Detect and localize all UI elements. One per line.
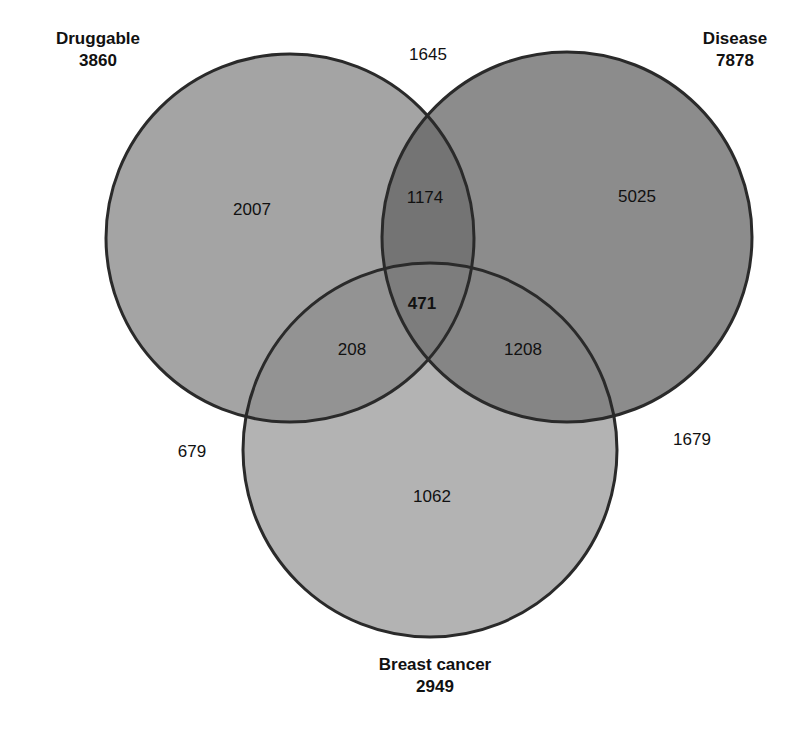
- disease-set-name: Disease: [703, 28, 767, 50]
- druggable-only-count: 2007: [233, 200, 271, 220]
- druggable-breast-cancer-count: 208: [338, 340, 366, 360]
- all-three-count: 471: [408, 294, 436, 314]
- druggable-set-label: Druggable 3860: [56, 28, 140, 72]
- outside-top-count: 1645: [409, 45, 447, 65]
- druggable-set-name: Druggable: [56, 28, 140, 50]
- breast-cancer-set-count: 2949: [379, 676, 491, 698]
- druggable-disease-count: 1174: [407, 188, 444, 208]
- disease-breast-cancer-count: 1208: [504, 340, 542, 360]
- outside-right-count: 1679: [673, 430, 711, 450]
- disease-set-label: Disease 7878: [703, 28, 767, 72]
- venn-diagram: [0, 0, 806, 740]
- breast-cancer-set-label: Breast cancer 2949: [379, 654, 491, 698]
- breast-cancer-only-count: 1062: [413, 487, 451, 507]
- breast-cancer-set-name: Breast cancer: [379, 654, 491, 676]
- outside-left-count: 679: [178, 442, 206, 462]
- druggable-set-count: 3860: [56, 50, 140, 72]
- disease-only-count: 5025: [618, 187, 656, 207]
- disease-set-count: 7878: [703, 50, 767, 72]
